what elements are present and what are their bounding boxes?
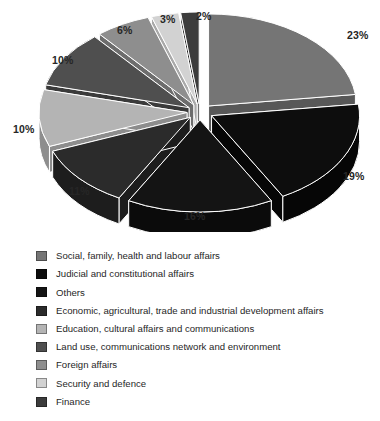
legend-item[interactable]: Judicial and constitutional affairs xyxy=(36,265,366,283)
legend-swatch-icon xyxy=(36,306,47,316)
slice-label-education: 10% xyxy=(13,124,34,135)
slice-label-finance: 2% xyxy=(196,11,211,22)
legend-item[interactable]: Security and defence xyxy=(36,374,366,392)
legend-item-label: Judicial and constitutional affairs xyxy=(56,269,194,279)
pie-slice-0[interactable] xyxy=(209,14,356,106)
legend-swatch-icon xyxy=(36,378,47,388)
legend-item-label: Others xyxy=(56,288,85,298)
pie-chart-canvas xyxy=(0,0,380,232)
legend-item-label: Economic, agricultural, trade and indust… xyxy=(56,306,324,316)
legend-item-label: Social, family, health and labour affair… xyxy=(56,251,220,261)
legend-item[interactable]: Education, cultural affairs and communic… xyxy=(36,320,366,338)
legend-item-label: Security and defence xyxy=(56,379,146,389)
slice-label-security: 3% xyxy=(160,14,175,25)
legend-item[interactable]: Foreign affairs xyxy=(36,356,366,374)
legend-item-label: Finance xyxy=(56,397,90,407)
slice-label-landuse: 10% xyxy=(52,55,73,66)
legend-swatch-icon xyxy=(36,360,47,370)
slice-label-social: 23% xyxy=(347,30,368,41)
slice-label-judicial: 19% xyxy=(343,171,364,182)
slice-label-others: 16% xyxy=(184,211,205,222)
legend-item-label: Education, cultural affairs and communic… xyxy=(56,324,254,334)
legend-item-label: Foreign affairs xyxy=(56,360,117,370)
legend-item-label: Land use, communications network and env… xyxy=(56,342,281,352)
legend-item[interactable]: Finance xyxy=(36,393,366,411)
pie-chart: 23% 19% 16% 11% 10% 10% 6% 3% 2% xyxy=(0,0,380,232)
legend-item[interactable]: Economic, agricultural, trade and indust… xyxy=(36,302,366,320)
legend-swatch-icon xyxy=(36,269,47,279)
legend: Social, family, health and labour affair… xyxy=(36,247,366,411)
legend-item[interactable]: Social, family, health and labour affair… xyxy=(36,247,366,265)
legend-swatch-icon xyxy=(36,397,47,407)
legend-item[interactable]: Land use, communications network and env… xyxy=(36,338,366,356)
pie-slices-group xyxy=(39,12,359,232)
legend-swatch-icon xyxy=(36,251,47,261)
slice-label-foreign: 6% xyxy=(117,25,132,36)
legend-swatch-icon xyxy=(36,324,47,334)
legend-swatch-icon xyxy=(36,342,47,352)
legend-swatch-icon xyxy=(36,287,47,297)
slice-label-economic: 11% xyxy=(69,186,90,197)
legend-item[interactable]: Others xyxy=(36,283,366,301)
